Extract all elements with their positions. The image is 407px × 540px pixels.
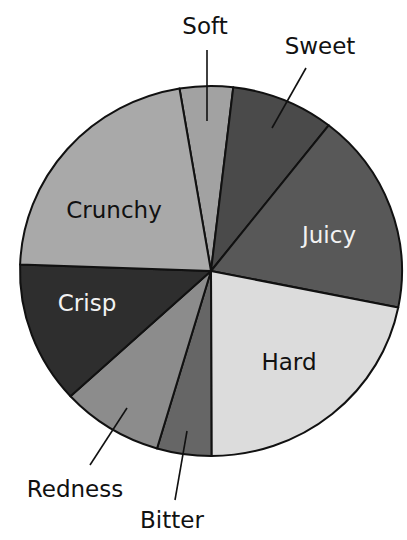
label-crisp: Crisp (58, 290, 117, 316)
label-hard: Hard (261, 349, 316, 375)
pie-slices (20, 86, 402, 456)
pie-slice-crunchy (20, 89, 211, 271)
label-sweet: Sweet (285, 33, 356, 59)
pie-chart: Soft Sweet Juicy Hard Bitter Redness Cri… (0, 0, 407, 540)
label-redness: Redness (27, 476, 123, 502)
label-juicy: Juicy (300, 222, 356, 248)
label-soft: Soft (182, 13, 227, 39)
label-crunchy: Crunchy (66, 197, 162, 223)
label-bitter: Bitter (140, 507, 204, 533)
